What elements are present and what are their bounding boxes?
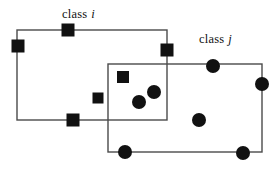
class-i-label: classi	[62, 7, 95, 22]
circle-marker	[206, 59, 220, 73]
class-j-sample-markers	[118, 59, 269, 160]
class-j-label-variable: j	[224, 32, 232, 46]
circle-marker	[118, 145, 132, 159]
bounding-box-diagram: classi classj	[0, 0, 280, 172]
square-marker	[62, 24, 75, 37]
class-i-bounding-box	[17, 30, 167, 120]
class-j-label: classj	[199, 32, 232, 47]
square-marker	[161, 44, 174, 57]
class-j-label-text: class	[199, 32, 224, 46]
circle-marker	[255, 77, 269, 91]
class-i-label-text: class	[62, 7, 87, 21]
class-j-bounding-box	[108, 64, 262, 152]
diagram-canvas	[0, 0, 280, 172]
circle-marker	[192, 113, 206, 127]
square-marker	[12, 40, 25, 53]
circle-marker	[236, 146, 250, 160]
square-marker	[117, 71, 129, 83]
circle-marker	[147, 85, 161, 99]
circle-marker	[132, 95, 146, 109]
square-marker	[67, 114, 80, 127]
square-marker	[93, 93, 104, 104]
class-i-label-variable: i	[87, 7, 95, 21]
class-i-sample-markers	[12, 24, 174, 127]
